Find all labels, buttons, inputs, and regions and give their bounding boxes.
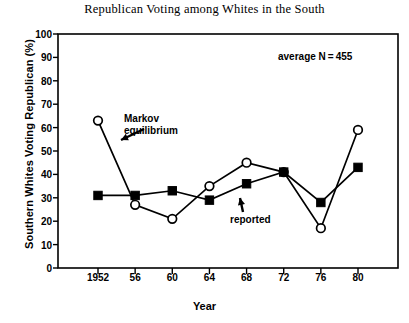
data-point-marker-circle <box>354 126 363 135</box>
chart-container: Republican Voting among Whites in the So… <box>0 0 409 323</box>
y-axis-tick-label: 10 <box>26 239 52 250</box>
y-axis-tick-label: 90 <box>26 52 52 63</box>
x-axis-tick-label: 64 <box>204 272 215 283</box>
y-axis-tick-label: 0 <box>26 263 52 274</box>
data-point-marker-square <box>354 163 362 171</box>
x-axis-tick-label: 1952 <box>87 272 109 283</box>
y-axis-tick-label: 20 <box>26 216 52 227</box>
y-axis-tick-label: 70 <box>26 99 52 110</box>
data-point-marker-square <box>280 168 288 176</box>
y-axis-tick-label: 30 <box>26 192 52 203</box>
series-line-1 <box>98 121 358 229</box>
x-axis-tick-label: 76 <box>315 272 326 283</box>
plot-frame <box>58 34 398 268</box>
y-axis-tick-label: 60 <box>26 122 52 133</box>
x-axis-tick-label: 80 <box>352 272 363 283</box>
x-axis-tick-label: 60 <box>167 272 178 283</box>
data-point-marker-square <box>168 187 176 195</box>
y-axis-tick-label: 50 <box>26 146 52 157</box>
data-point-marker-square <box>131 191 139 199</box>
y-axis-tick-label: 80 <box>26 75 52 86</box>
data-point-marker-circle <box>131 201 140 210</box>
y-axis-tick-label: 100 <box>26 29 52 40</box>
data-point-marker-square <box>205 196 213 204</box>
data-point-marker-circle <box>94 116 103 125</box>
x-axis-tick-label: 56 <box>130 272 141 283</box>
data-point-marker-square <box>94 191 102 199</box>
data-point-marker-circle <box>168 215 177 224</box>
data-point-marker-square <box>317 198 325 206</box>
data-point-marker-circle <box>205 182 214 191</box>
markov-annotation-arrow <box>121 129 144 140</box>
data-point-marker-circle <box>242 158 251 167</box>
reported-annotation-arrow <box>238 198 245 212</box>
data-point-marker-circle <box>317 224 326 233</box>
x-axis-tick-label: 72 <box>278 272 289 283</box>
data-point-marker-square <box>242 180 250 188</box>
x-axis-tick-label: 68 <box>241 272 252 283</box>
y-axis-tick-label: 40 <box>26 169 52 180</box>
